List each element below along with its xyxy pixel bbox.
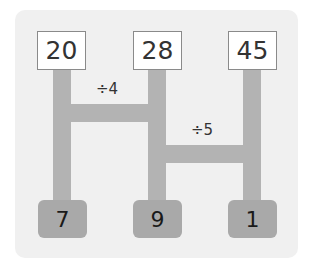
connector-div5 — [166, 145, 243, 163]
bottom-number-box-3: 1 — [228, 200, 277, 238]
operation-label-div4: ÷4 — [96, 80, 118, 98]
top-number-box-2: 28 — [133, 31, 182, 70]
stem-right — [243, 70, 261, 202]
stem-middle — [148, 70, 166, 202]
stem-left — [53, 70, 71, 202]
connector-div4 — [71, 104, 148, 122]
operation-label-div5: ÷5 — [191, 121, 213, 139]
bottom-number-box-1: 7 — [38, 200, 87, 238]
top-number-box-3: 45 — [228, 31, 277, 70]
top-number-box-1: 20 — [37, 31, 86, 70]
bottom-number-box-2: 9 — [133, 200, 182, 238]
